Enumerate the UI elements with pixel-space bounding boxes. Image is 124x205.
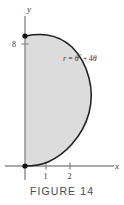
x-tick-label-1: 1 [44,172,48,181]
equation-equals: = [68,54,73,63]
origin-point-marker [22,163,27,168]
polar-curve-plot: y x 8 1 2 r=θ2+4θ [0,0,124,205]
y-intercept-point-marker [22,33,27,38]
equation-theta-2: θ [93,54,97,63]
y-axis-label: y [26,4,31,14]
x-axis-label: x [114,161,119,171]
figure-container: y x 8 1 2 r=θ2+4θ FIGURE 14 [0,0,124,205]
y-tick-label-8: 8 [12,40,16,49]
figure-caption: FIGURE 14 [0,185,124,197]
x-tick-label-2: 2 [68,172,72,181]
equation-plus: + [83,54,88,63]
equation-exponent: 2 [79,53,82,59]
